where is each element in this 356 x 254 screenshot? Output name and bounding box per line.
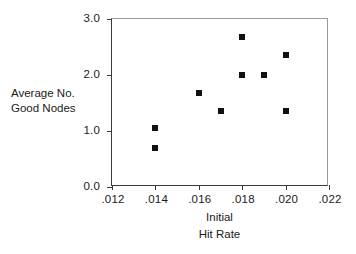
x-axis-tick-label: .012 [101, 193, 124, 205]
x-axis-tick-label: .022 [318, 193, 341, 205]
scatter-point [283, 108, 289, 114]
y-axis-tick-label: 0.0 [83, 180, 100, 192]
y-axis-title-line2: Good Nodes [11, 101, 76, 116]
y-axis-tick: 2.0 [107, 75, 112, 76]
y-axis-tick-label: 1.0 [83, 124, 100, 136]
scatter-point [196, 90, 202, 96]
y-axis-tick-label: 3.0 [83, 12, 100, 24]
scatter-point [239, 34, 245, 40]
scatter-point [218, 108, 224, 114]
x-axis-title-line1: Initial [111, 209, 328, 226]
scatter-point [152, 145, 158, 151]
x-axis-title-line2: Hit Rate [111, 226, 328, 243]
scatter-point [152, 125, 158, 131]
x-axis-tick-label: .018 [232, 193, 255, 205]
x-axis-tick: .016 [199, 185, 200, 190]
x-axis-tick: .020 [286, 185, 287, 190]
x-axis-tick: .012 [112, 185, 113, 190]
x-axis-tick: .022 [329, 185, 330, 190]
y-axis-tick-label: 2.0 [83, 68, 100, 80]
scatter-point [283, 52, 289, 58]
x-axis-tick: .018 [242, 185, 243, 190]
plot-area: 0.01.02.03.0 .012.014.016.018.020.022 [111, 18, 328, 186]
y-axis-tick: 1.0 [107, 131, 112, 132]
scatter-point [239, 72, 245, 78]
x-axis-tick-label: .014 [145, 193, 168, 205]
chart-page: Average No. Good Nodes 0.01.02.03.0 .012… [0, 0, 356, 254]
x-axis-tick-label: .020 [275, 193, 298, 205]
x-axis-tick-label: .016 [188, 193, 211, 205]
x-axis-title: Initial Hit Rate [111, 209, 328, 243]
y-axis-title-line1: Average No. [11, 86, 76, 101]
x-axis-tick: .014 [155, 185, 156, 190]
y-axis-title: Average No. Good Nodes [11, 86, 76, 116]
scatter-point [261, 72, 267, 78]
y-axis-tick: 3.0 [107, 19, 112, 20]
